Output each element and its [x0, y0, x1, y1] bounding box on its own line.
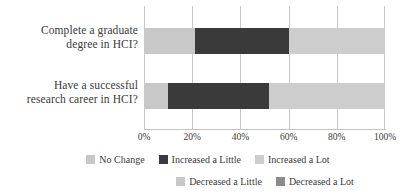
bar-segment-increased-a-lot	[289, 28, 385, 54]
gridline-40pct	[240, 6, 241, 130]
x-tick-label: 60%	[269, 132, 309, 143]
bar-row-successful-research-career	[144, 83, 385, 109]
x-axis-baseline	[144, 129, 386, 130]
category-label-line: degree in HCI?	[4, 38, 138, 52]
bar-segment-increased-a-little	[168, 83, 269, 109]
legend-label: Decreased a Little	[189, 176, 262, 187]
x-tick-label: 100%	[365, 132, 405, 143]
category-label-successful-research-career: Have a successful research career in HCI…	[4, 79, 138, 106]
legend-swatch-icon	[255, 155, 264, 164]
bar-segment-increased-a-lot	[269, 83, 385, 109]
legend-label: No Change	[99, 154, 144, 165]
category-label-line: Complete a graduate	[4, 24, 138, 38]
x-tick-label: 20%	[172, 132, 212, 143]
gridline-0pct	[144, 6, 145, 130]
legend: No ChangeIncreased a LittleIncreased a L…	[0, 148, 410, 192]
legend-label: Decreased a Lot	[289, 176, 354, 187]
gridline-80pct	[337, 6, 338, 130]
bar-segment-no-change	[144, 28, 195, 54]
legend-label: Increased a Little	[172, 154, 241, 165]
legend-row-increases: No ChangeIncreased a LittleIncreased a L…	[0, 148, 410, 170]
legend-swatch-icon	[276, 177, 285, 186]
stacked-bar-chart: Complete a graduate degree in HCI? Have …	[0, 0, 410, 196]
category-label-line: Have a successful	[4, 79, 138, 93]
legend-swatch-icon	[176, 177, 185, 186]
bar-segment-no-change	[144, 83, 168, 109]
gridline-20pct	[192, 6, 193, 130]
plot-area	[144, 6, 385, 130]
gridline-60pct	[289, 6, 290, 130]
bar-row-complete-graduate-degree	[144, 28, 385, 54]
legend-item-increased-a-little[interactable]: Increased a Little	[159, 154, 241, 165]
legend-swatch-icon	[86, 155, 95, 164]
legend-swatch-icon	[159, 155, 168, 164]
gridline-100pct	[384, 6, 385, 130]
category-label-line: research career in HCI?	[4, 93, 138, 107]
category-label-complete-graduate-degree: Complete a graduate degree in HCI?	[4, 24, 138, 51]
legend-item-decreased-a-lot[interactable]: Decreased a Lot	[276, 176, 354, 187]
legend-item-no-change[interactable]: No Change	[86, 154, 144, 165]
x-tick-label: 0%	[124, 132, 164, 143]
x-tick-label: 40%	[220, 132, 260, 143]
legend-row-decreases: Decreased a LittleDecreased a Lot	[0, 170, 410, 192]
bar-segment-increased-a-little	[195, 28, 289, 54]
legend-item-increased-a-lot[interactable]: Increased a Lot	[255, 154, 330, 165]
legend-label: Increased a Lot	[268, 154, 330, 165]
legend-item-decreased-a-little[interactable]: Decreased a Little	[176, 176, 262, 187]
x-tick-label: 80%	[317, 132, 357, 143]
